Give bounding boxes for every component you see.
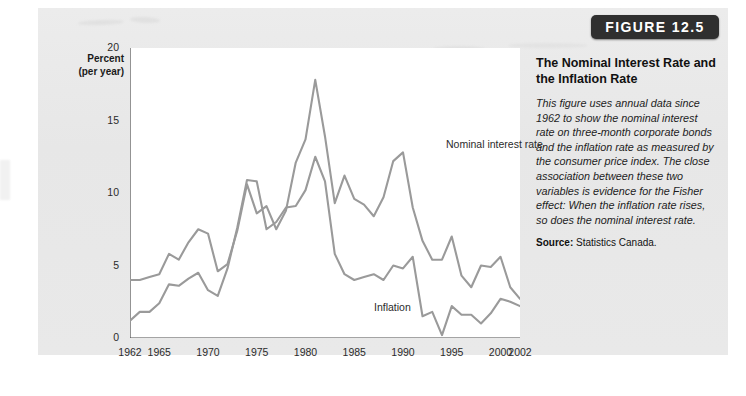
caption-title: The Nominal Interest Rate and the Inflat… — [536, 56, 718, 87]
caption-source-label: Source: — [536, 237, 573, 248]
x-tick-label: 1970 — [196, 346, 219, 358]
y-tick-label: 5 — [97, 259, 119, 271]
x-tick-label: 1990 — [391, 346, 414, 358]
caption-source: Source: Statistics Canada. — [536, 237, 718, 248]
x-tick-label: 1995 — [440, 346, 463, 358]
line-chart — [130, 48, 520, 338]
chart-plot-area: Nominal interest rate Inflation — [130, 48, 520, 338]
scan-smudge — [508, 43, 588, 48]
y-tick-label: 0 — [97, 331, 119, 343]
y-tick-label: 20 — [97, 41, 119, 53]
scan-smudge — [78, 19, 124, 26]
plot-background — [130, 48, 520, 338]
figure-page: FIGURE 12.5 Percent (per year) Nominal i… — [0, 0, 746, 396]
x-tick-label: 1980 — [294, 346, 317, 358]
x-tick-label: 1962 — [118, 346, 141, 358]
y-axis-title-line2: (per year) — [52, 65, 124, 78]
figure-badge-label: FIGURE 12.5 — [605, 19, 704, 35]
y-axis-title: Percent (per year) — [52, 52, 124, 78]
y-tick-label: 10 — [97, 186, 119, 198]
y-tick-label: 15 — [97, 114, 119, 126]
caption-body: This figure uses annual data since 1962 … — [536, 96, 718, 227]
scan-smudge — [0, 160, 10, 200]
x-tick-label: 2002 — [508, 346, 531, 358]
figure-badge: FIGURE 12.5 — [591, 15, 719, 39]
series-label-inflation: Inflation — [374, 301, 411, 313]
y-axis-title-line1: Percent — [52, 52, 124, 65]
caption-source-text: Statistics Canada. — [576, 237, 657, 248]
series-label-nominal-interest-rate: Nominal interest rate — [446, 138, 543, 150]
x-tick-label: 1975 — [245, 346, 268, 358]
caption-column: The Nominal Interest Rate and the Inflat… — [536, 56, 718, 248]
x-tick-label: 1985 — [343, 346, 366, 358]
x-tick-label: 1965 — [148, 346, 171, 358]
scan-smudge — [130, 16, 160, 24]
